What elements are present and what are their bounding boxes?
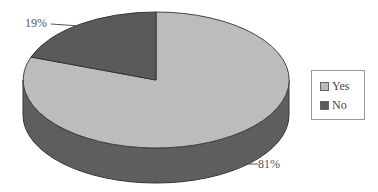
legend-item-yes: Yes bbox=[320, 79, 349, 94]
label-yes-percent: 81% bbox=[258, 157, 280, 172]
label-no-percent: 19% bbox=[25, 16, 47, 31]
legend-swatch-no bbox=[320, 101, 329, 110]
legend-label-no: No bbox=[332, 98, 347, 113]
leader-line-no bbox=[51, 24, 80, 26]
legend: Yes No bbox=[311, 70, 365, 120]
legend-swatch-yes bbox=[320, 82, 329, 91]
legend-item-no: No bbox=[320, 98, 347, 113]
legend-label-yes: Yes bbox=[332, 79, 349, 94]
